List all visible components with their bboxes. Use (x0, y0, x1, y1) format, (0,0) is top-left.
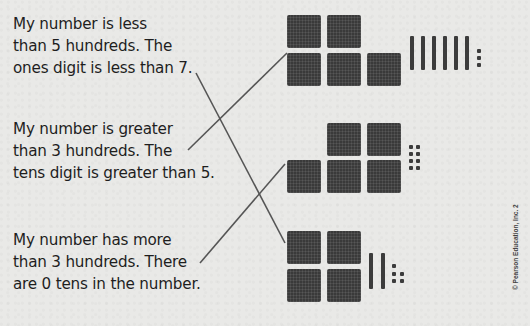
worksheet-page: My number is less than 5 hundreds. The o… (0, 0, 530, 326)
ones-unit-icon (416, 159, 420, 163)
ones-unit-icon (409, 145, 413, 149)
hundreds-flat-icon (327, 269, 361, 302)
hundreds-flat-icon (287, 15, 321, 48)
ones-unit-icon (400, 272, 404, 276)
hundreds-flat-icon (367, 160, 401, 193)
ones-unit-icon (409, 166, 413, 170)
tens-rod-icon (421, 36, 425, 70)
ones-unit-icon (392, 264, 396, 268)
hundreds-flat-icon (287, 53, 321, 86)
match-line-clue3-model2[interactable] (200, 164, 285, 263)
ones-unit-icon (392, 279, 396, 283)
tens-rod-icon (432, 36, 436, 70)
hundreds-flat-icon (367, 123, 401, 156)
ones-unit-icon (400, 279, 404, 283)
match-line-clue2-model1[interactable] (188, 53, 287, 150)
copyright-notice: © Pearson Education, Inc. 2 (512, 204, 519, 290)
ones-unit-icon (392, 272, 396, 276)
hundreds-flat-icon (287, 269, 321, 302)
ones-unit-icon (477, 63, 481, 67)
tens-rod-icon (443, 36, 447, 70)
ones-unit-icon (416, 145, 420, 149)
ones-unit-icon (416, 166, 420, 170)
ones-unit-icon (409, 152, 413, 156)
hundreds-flat-icon (327, 123, 361, 156)
hundreds-flat-icon (367, 53, 401, 86)
matching-lines (0, 0, 530, 326)
tens-rod-icon (465, 36, 469, 70)
ones-unit-icon (477, 56, 481, 60)
ones-unit-icon (416, 152, 420, 156)
tens-rod-icon (410, 36, 414, 70)
hundreds-flat-icon (327, 231, 361, 264)
tens-rod-icon (381, 253, 385, 289)
hundreds-flat-icon (327, 160, 361, 193)
hundreds-flat-icon (327, 15, 361, 48)
hundreds-flat-icon (327, 53, 361, 86)
hundreds-flat-icon (287, 231, 321, 264)
tens-rod-icon (369, 253, 373, 289)
tens-rod-icon (454, 36, 458, 70)
hundreds-flat-icon (287, 160, 321, 193)
ones-unit-icon (477, 49, 481, 53)
ones-unit-icon (409, 159, 413, 163)
